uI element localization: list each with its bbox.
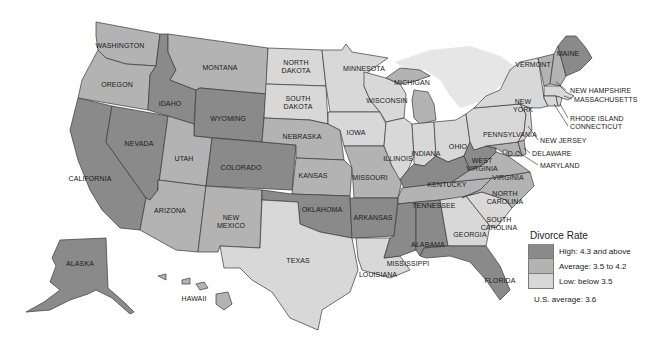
svg-text:NEW JERSEY: NEW JERSEY (540, 137, 587, 144)
svg-text:MARYLAND: MARYLAND (540, 162, 580, 169)
svg-text:MISSOURI: MISSOURI (352, 174, 387, 181)
svg-text:TEXAS: TEXAS (286, 257, 310, 264)
svg-text:DAKOTA: DAKOTA (284, 103, 313, 110)
svg-text:MEXICO: MEXICO (217, 222, 246, 229)
svg-text:IDAHO: IDAHO (159, 100, 182, 107)
svg-text:WYOMING: WYOMING (210, 115, 246, 122)
svg-text:MICHIGAN: MICHIGAN (394, 79, 430, 86)
state-dc[interactable] (503, 150, 507, 154)
svg-text:NEW: NEW (515, 98, 532, 105)
state-florida[interactable] (420, 246, 510, 300)
svg-text:HAWAII: HAWAII (182, 295, 207, 302)
legend-item-average: Average: 3.5 to 4.2 (528, 259, 652, 274)
svg-text:KENTUCKY: KENTUCKY (428, 181, 467, 188)
legend: Divorce Rate High: 4.3 and above Average… (528, 230, 652, 304)
svg-text:MISSISSIPPI: MISSISSIPPI (387, 260, 430, 267)
svg-text:IOWA: IOWA (347, 129, 366, 136)
svg-text:CAROLINA: CAROLINA (487, 198, 524, 205)
svg-text:LOUISIANA: LOUISIANA (359, 271, 397, 278)
svg-text:NORTH: NORTH (283, 59, 308, 66)
svg-text:RHODE ISLAND: RHODE ISLAND (570, 115, 624, 122)
svg-text:UTAH: UTAH (175, 155, 194, 162)
svg-text:WASHINGTON: WASHINGTON (96, 42, 145, 49)
legend-swatch-low (528, 274, 554, 289)
svg-text:WISCONSIN: WISCONSIN (366, 97, 407, 104)
svg-text:PENNSYLVANIA: PENNSYLVANIA (483, 131, 537, 138)
svg-text:MAINE: MAINE (557, 50, 580, 57)
svg-text:GEORGIA: GEORGIA (453, 231, 487, 238)
svg-text:VIRGINIA: VIRGINIA (466, 165, 498, 172)
svg-text:COLORADO: COLORADO (221, 164, 262, 171)
svg-text:NORTH: NORTH (492, 190, 517, 197)
legend-label-average: Average: 3.5 to 4.2 (559, 262, 626, 271)
svg-text:ALASKA: ALASKA (66, 260, 94, 267)
legend-swatch-high (528, 244, 554, 259)
svg-text:ARKANSAS: ARKANSAS (354, 214, 393, 221)
svg-text:NEBRASKA: NEBRASKA (283, 133, 322, 140)
svg-text:DELAWARE: DELAWARE (532, 150, 572, 157)
svg-text:NEVADA: NEVADA (125, 140, 154, 147)
svg-text:MINNESOTA: MINNESOTA (343, 65, 385, 72)
svg-text:TENNESSEE: TENNESSEE (412, 202, 456, 209)
svg-text:NEW HAMPSHIRE: NEW HAMPSHIRE (570, 87, 631, 94)
svg-text:OREGON: OREGON (101, 81, 133, 88)
svg-text:FLORIDA: FLORIDA (484, 277, 515, 284)
svg-text:OHIO: OHIO (449, 143, 468, 150)
svg-text:WEST: WEST (472, 157, 493, 164)
svg-text:CALIFORNIA: CALIFORNIA (68, 175, 111, 182)
svg-text:KANSAS: KANSAS (299, 172, 328, 179)
svg-text:ILLINOIS: ILLINOIS (383, 155, 413, 162)
svg-text:CAROLINA: CAROLINA (481, 224, 518, 231)
svg-text:MONTANA: MONTANA (202, 64, 237, 71)
svg-text:OKLAHOMA: OKLAHOMA (302, 206, 343, 213)
svg-text:VERMONT: VERMONT (515, 61, 551, 68)
legend-title: Divorce Rate (530, 230, 652, 241)
svg-text:ALABAMA: ALABAMA (411, 241, 445, 248)
legend-label-low: Low: below 3.5 (559, 277, 612, 286)
svg-text:VIRGINIA: VIRGINIA (492, 174, 524, 181)
legend-item-high: High: 4.3 and above (528, 244, 652, 259)
svg-text:SOUTH: SOUTH (487, 216, 512, 223)
svg-text:ARIZONA: ARIZONA (154, 207, 186, 214)
us-average-note: U.S. average: 3.6 (534, 295, 652, 304)
svg-text:INDIANA: INDIANA (411, 150, 440, 157)
state-hawaii[interactable] (158, 274, 232, 310)
svg-text:DAKOTA: DAKOTA (282, 67, 311, 74)
svg-text:CONNECTICUT: CONNECTICUT (570, 123, 623, 130)
legend-label-high: High: 4.3 and above (559, 247, 631, 256)
svg-text:YORK: YORK (513, 106, 533, 113)
state-alaska[interactable] (26, 238, 134, 314)
legend-item-low: Low: below 3.5 (528, 274, 652, 289)
legend-swatch-average (528, 259, 554, 274)
svg-text:NEW: NEW (223, 214, 240, 221)
svg-text:MASSACHUSETTS: MASSACHUSETTS (574, 96, 638, 103)
svg-text:SOUTH: SOUTH (286, 95, 311, 102)
